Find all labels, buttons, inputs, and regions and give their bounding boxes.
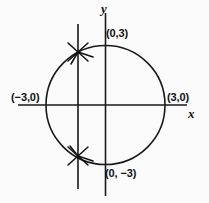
upper-intersection-mark [68,43,93,64]
circle-diagram-figure: (0,3) (−3,0) (3,0) (0, −3) y x [0,0,209,203]
point-label-top: (0,3) [106,27,128,39]
x-axis-label: x [188,106,195,122]
point-label-bottom: (0, −3) [105,167,136,179]
point-label-right: (3,0) [167,91,189,103]
y-axis-label: y [101,1,107,17]
point-label-left: (−3,0) [11,91,39,103]
